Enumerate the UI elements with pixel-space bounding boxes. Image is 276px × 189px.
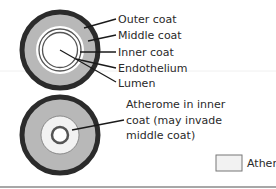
label-atherome-line-2: coat (may invade: [126, 114, 222, 127]
label-middle-coat: Middle coat: [118, 29, 182, 42]
legend-label-atheroma: Atheroma: [247, 157, 276, 170]
label-inner-coat: Inner coat: [118, 46, 174, 59]
label-atherome-line-1: Atherome in inner: [126, 98, 226, 111]
artery-diagram: Outer coat Middle coat Inner coat Endoth…: [0, 0, 276, 189]
diseased-artery-cross-section: [22, 97, 98, 173]
label-outer-coat: Outer coat: [118, 13, 177, 26]
label-lumen: Lumen: [118, 77, 155, 90]
label-endothelium: Endothelium: [118, 62, 188, 75]
legend-swatch-atheroma: [216, 155, 242, 171]
label-atherome-line-3: middle coat): [126, 129, 195, 142]
narrowed-lumen-ring: [52, 127, 68, 143]
